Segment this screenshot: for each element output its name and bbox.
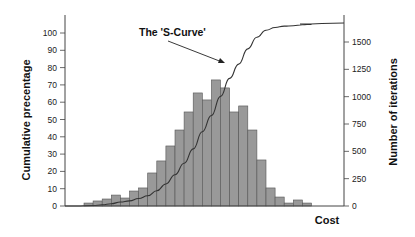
histogram-bar	[221, 88, 230, 206]
right-tick-label: 0	[352, 201, 357, 211]
left-axis-title: Cumulative precentage	[20, 59, 32, 180]
left-tick-label: 10	[48, 184, 58, 194]
left-tick-label: 40	[48, 132, 58, 142]
left-tick-label: 60	[48, 97, 58, 107]
left-tick-label: 30	[48, 149, 58, 159]
histogram-bar	[230, 112, 239, 206]
histogram-bar	[275, 197, 284, 206]
histogram-bar	[266, 188, 275, 206]
histogram-bar	[248, 130, 257, 206]
left-tick-label: 90	[48, 45, 58, 55]
s-curve-annotation: The 'S-Curve'	[139, 26, 206, 38]
left-tick-label: 20	[48, 166, 58, 176]
left-tick-label: 70	[48, 80, 58, 90]
histogram-bar	[184, 112, 193, 206]
right-tick-label: 1500	[352, 37, 371, 47]
histogram-bar	[211, 80, 220, 206]
s-curve-chart: 0102030405060708090100 02505007501000125…	[0, 0, 415, 237]
histogram-bars	[84, 80, 312, 206]
left-tick-label: 50	[48, 115, 58, 125]
histogram-bar	[293, 200, 302, 206]
right-tick-label: 250	[352, 174, 366, 184]
histogram-bar	[148, 173, 157, 206]
left-tick-label: 100	[43, 28, 57, 38]
x-axis-title: Cost	[315, 214, 340, 226]
left-axis: 0102030405060708090100	[43, 15, 65, 211]
histogram-bar	[257, 160, 266, 206]
left-tick-label: 80	[48, 63, 58, 73]
right-axis-title: Number of iterations	[387, 58, 399, 166]
histogram-bar	[166, 146, 175, 206]
right-axis: 0250500750100012501500	[344, 15, 371, 211]
right-tick-label: 500	[352, 146, 366, 156]
histogram-bar	[239, 106, 248, 206]
histogram-bar	[193, 93, 202, 206]
histogram-bar	[111, 195, 120, 206]
right-tick-label: 750	[352, 119, 366, 129]
annotation-arrow	[168, 41, 225, 63]
right-tick-label: 1000	[352, 92, 371, 102]
histogram-bar	[157, 161, 166, 206]
right-tick-label: 1250	[352, 64, 371, 74]
left-tick-label: 0	[52, 201, 57, 211]
